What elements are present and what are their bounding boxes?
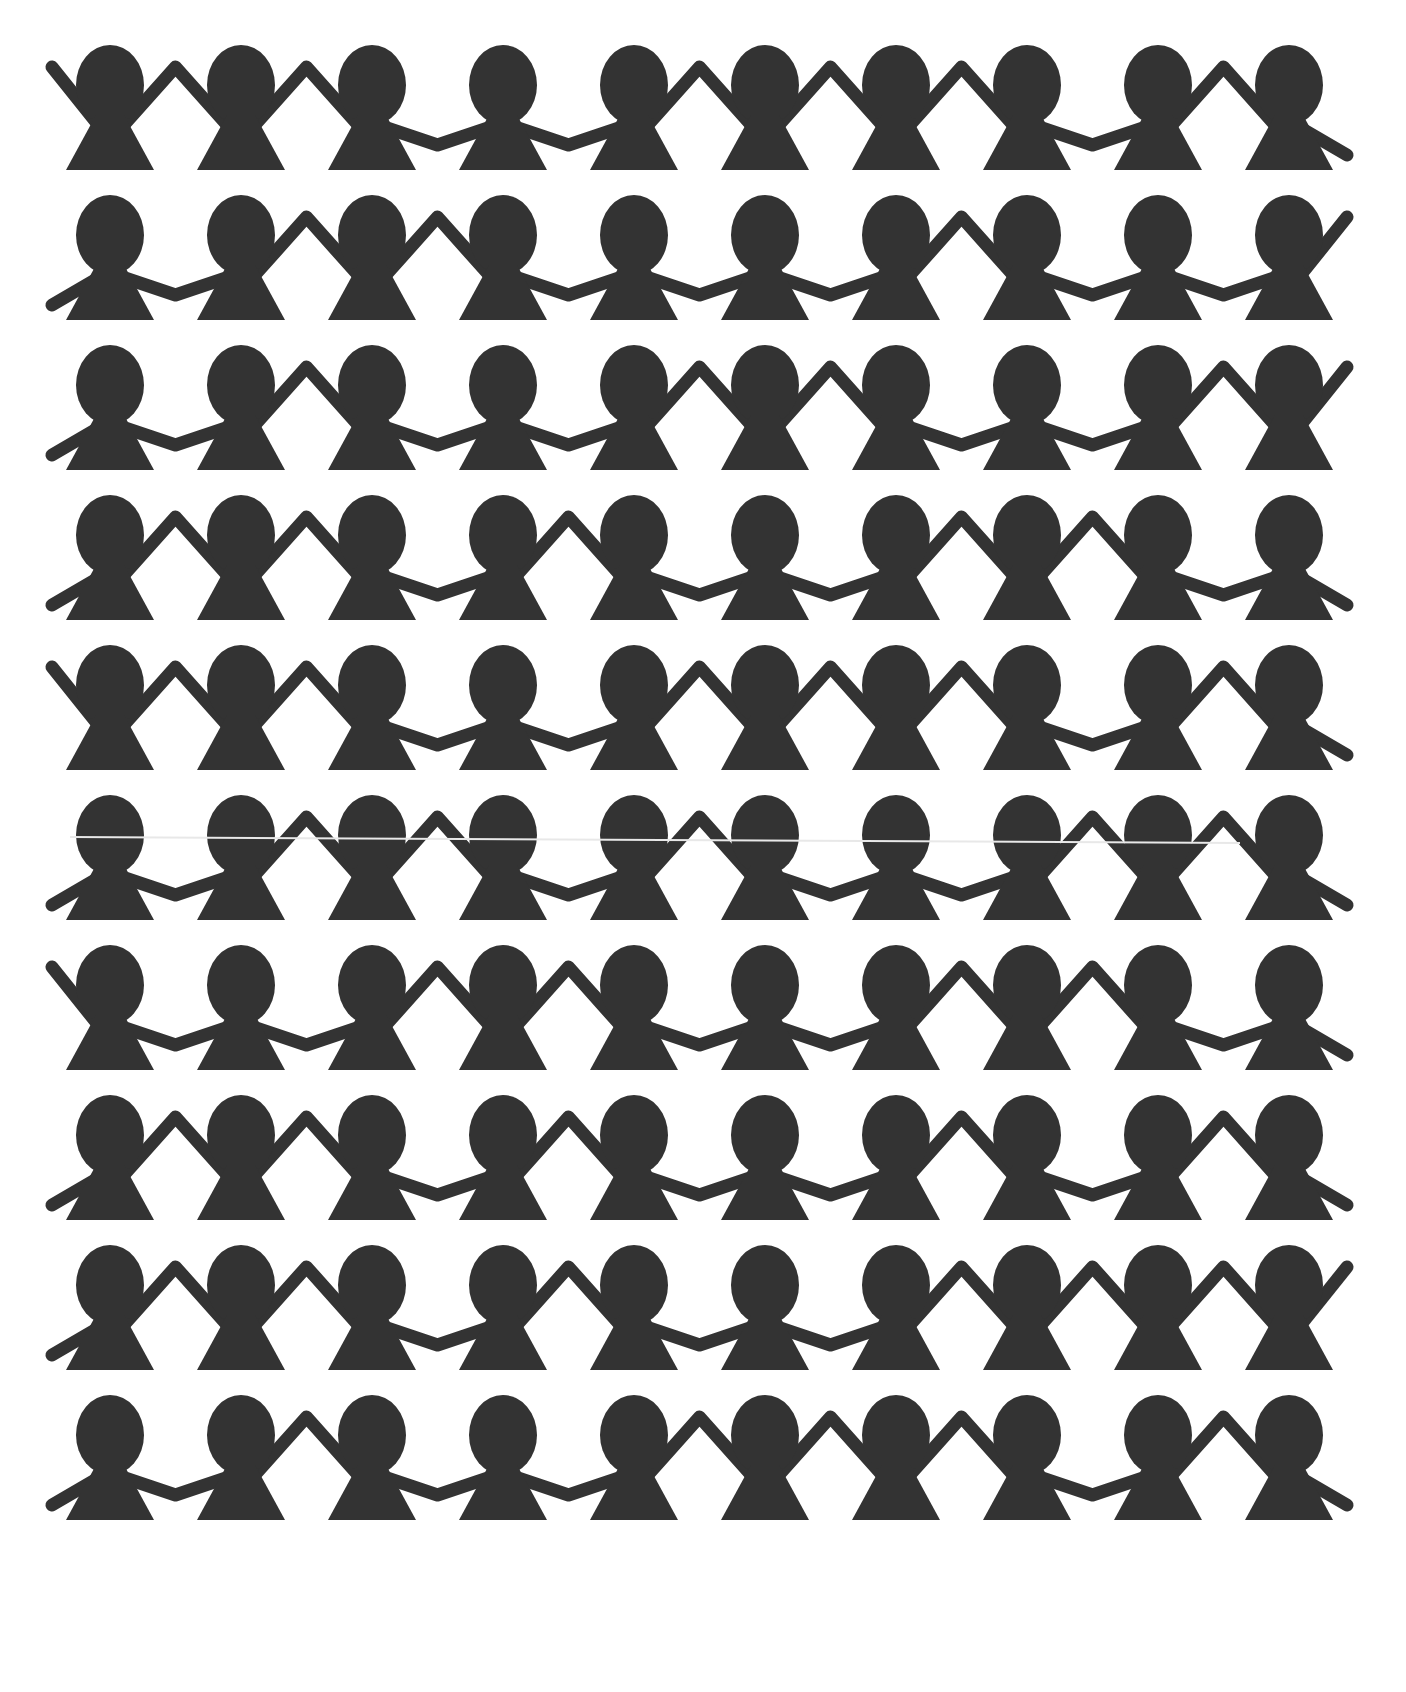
body-icon [459,1015,547,1070]
body-icon [1114,715,1202,770]
head-icon [76,195,144,275]
head-icon [731,645,799,725]
body-icon [721,715,809,770]
head-icon [1124,345,1192,425]
body-icon [983,265,1071,320]
body-icon [590,1315,678,1370]
head-icon [1124,195,1192,275]
body-icon [721,1165,809,1220]
body-icon [852,1315,940,1370]
body-icon [66,115,154,170]
body-icon [852,865,940,920]
body-icon [328,565,416,620]
head-icon [600,195,668,275]
head-icon [76,45,144,125]
head-icon [993,195,1061,275]
head-icon [338,1095,406,1175]
head-icon [76,645,144,725]
body-icon [852,565,940,620]
body-icon [459,1315,547,1370]
body-icon [1114,265,1202,320]
paper-doll-figure [852,795,940,920]
doll-row-5 [52,645,1347,770]
head-icon [338,795,406,875]
head-icon [76,795,144,875]
head-icon [1255,195,1323,275]
head-icon [469,945,537,1025]
head-icon [862,645,930,725]
head-icon [207,45,275,125]
body-icon [197,1165,285,1220]
body-icon [1114,1015,1202,1070]
body-icon [328,1465,416,1520]
body-icon [197,1015,285,1070]
head-icon [469,345,537,425]
head-icon [1124,495,1192,575]
body-icon [197,715,285,770]
body-icon [983,715,1071,770]
head-icon [731,1245,799,1325]
body-icon [721,265,809,320]
paper-doll-figure [66,345,154,470]
doll-row-3 [52,345,1347,470]
doll-row-9 [52,1245,1347,1370]
body-icon [328,1015,416,1070]
body-icon [852,415,940,470]
body-icon [721,1315,809,1370]
head-icon [207,945,275,1025]
body-icon [983,1015,1071,1070]
body-icon [197,115,285,170]
paper-doll-figure [66,795,154,920]
body-icon [590,265,678,320]
paper-doll-figure [66,195,154,320]
head-icon [731,1095,799,1175]
head-icon [993,1395,1061,1475]
body-icon [983,1315,1071,1370]
paper-doll-figure [1245,495,1333,620]
head-icon [1124,945,1192,1025]
doll-row-4 [52,495,1347,620]
head-icon [600,345,668,425]
body-icon [1114,1165,1202,1220]
head-icon [1255,1095,1323,1175]
doll-rows [52,45,1347,1520]
head-icon [1124,645,1192,725]
body-icon [590,1465,678,1520]
head-icon [993,645,1061,725]
body-icon [328,1165,416,1220]
head-icon [1255,795,1323,875]
body-icon [197,265,285,320]
head-icon [207,495,275,575]
body-icon [328,265,416,320]
paper-doll-figure [1245,945,1333,1070]
head-icon [731,345,799,425]
head-icon [993,945,1061,1025]
head-icon [1255,645,1323,725]
head-icon [1255,1395,1323,1475]
head-icon [993,495,1061,575]
body-icon [459,115,547,170]
paper-doll-chain-pattern [0,0,1406,1692]
head-icon [600,495,668,575]
body-icon [1114,1315,1202,1370]
head-icon [862,1395,930,1475]
head-icon [469,495,537,575]
head-icon [862,345,930,425]
paper-doll-figure [459,645,547,770]
head-icon [207,645,275,725]
body-icon [1245,415,1333,470]
head-icon [1124,1395,1192,1475]
body-icon [590,1165,678,1220]
body-icon [721,115,809,170]
body-icon [983,565,1071,620]
head-icon [76,1395,144,1475]
paper-doll-figure [459,345,547,470]
body-icon [590,565,678,620]
head-icon [76,1245,144,1325]
body-icon [328,115,416,170]
head-icon [862,795,930,875]
body-icon [852,1015,940,1070]
paper-doll-figure [721,495,809,620]
body-icon [721,1465,809,1520]
head-icon [993,1095,1061,1175]
